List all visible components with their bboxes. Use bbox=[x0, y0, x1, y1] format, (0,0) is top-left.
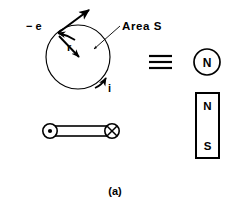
bar-magnet-north-label: N bbox=[203, 100, 211, 112]
loop-edge-body bbox=[50, 126, 112, 136]
area-label: Area S bbox=[122, 20, 162, 32]
current-label: i bbox=[108, 82, 111, 94]
pole-face-label: N bbox=[203, 56, 212, 70]
physics-diagram: − e r i Area S N N S (a) bbox=[0, 0, 231, 212]
current-out-of-page-dot-icon bbox=[48, 129, 52, 133]
electron-charge-label: − e bbox=[26, 20, 42, 32]
radius-label: r bbox=[67, 41, 72, 53]
bar-magnet-south-label: S bbox=[204, 140, 212, 152]
figure-panel-a: − e r i Area S N N S (a) bbox=[0, 0, 231, 212]
velocity-arrow bbox=[58, 10, 89, 33]
figure-caption: (a) bbox=[108, 185, 122, 197]
area-leader-line bbox=[94, 26, 120, 49]
equivalence-symbol bbox=[149, 56, 172, 68]
